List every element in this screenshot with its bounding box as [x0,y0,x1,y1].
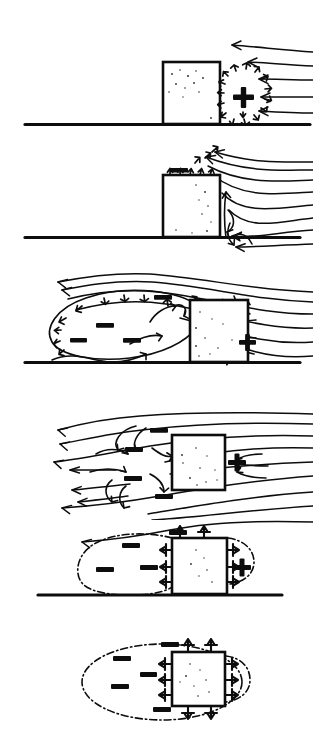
airflow-pressure-figure [0,0,313,752]
panel-pressure-envelope-free [0,624,313,752]
bluff-body-box [163,62,220,124]
pressure-signs [111,642,179,712]
bluff-body-box [172,435,225,490]
panel-wake-bubble [0,262,313,392]
panel-free-stream [0,392,313,520]
bluff-body-box [172,652,225,706]
pressure-signs [124,428,173,499]
bluff-body-box [190,300,248,362]
bluff-body-box [163,175,220,237]
panel-stagnation [0,0,313,140]
bluff-body-box [172,538,227,594]
positive-pressure-sign [233,559,251,577]
panel-pressure-envelope-grounded [0,520,313,624]
positive-pressure-sign [233,87,254,108]
negative-pressure-sign [170,168,188,173]
panel-separation [0,140,313,260]
